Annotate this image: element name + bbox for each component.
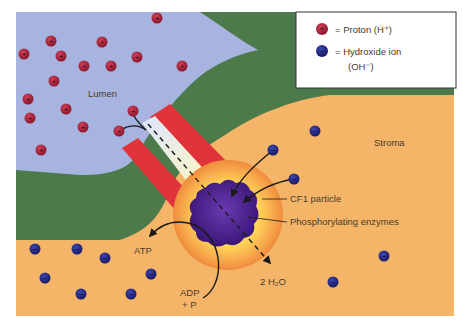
proton-icon: + xyxy=(46,36,57,47)
svg-text:−: − xyxy=(271,146,276,155)
svg-text:−: − xyxy=(79,290,84,299)
svg-text:+: + xyxy=(52,77,57,86)
stroma-label: Stroma xyxy=(374,137,405,148)
proton-icon: + xyxy=(177,61,188,72)
svg-text:−: − xyxy=(292,175,297,184)
svg-text:+: + xyxy=(39,146,44,155)
legend-proton-symbol: + xyxy=(319,24,324,34)
hydroxide-icon: − xyxy=(100,253,111,264)
svg-text:+: + xyxy=(26,95,31,104)
hydroxide-icon: − xyxy=(289,174,300,185)
svg-text:−: − xyxy=(382,252,387,261)
svg-text:+: + xyxy=(64,105,69,114)
svg-text:+: + xyxy=(155,14,160,23)
hydroxide-icon: − xyxy=(126,289,137,300)
proton-icon: + xyxy=(79,61,90,72)
proton-icon: + xyxy=(23,94,34,105)
svg-text:+: + xyxy=(81,123,86,132)
legend: + = Proton (H⁺) − = Hydroxide ion (OH⁻) xyxy=(296,12,456,88)
cf1-label: CF1 particle xyxy=(290,193,341,204)
phosphate-label: + P xyxy=(182,299,197,310)
svg-text:−: − xyxy=(43,274,48,283)
svg-text:+: + xyxy=(82,62,87,71)
proton-icon: + xyxy=(61,104,72,115)
svg-text:+: + xyxy=(49,37,54,46)
svg-text:+: + xyxy=(100,38,105,47)
svg-text:−: − xyxy=(33,245,38,254)
svg-text:+: + xyxy=(180,62,185,71)
proton-icon: + xyxy=(19,49,30,60)
svg-text:+: + xyxy=(131,107,136,116)
hydroxide-icon: − xyxy=(379,251,390,262)
legend-hydroxide-symbol: − xyxy=(319,46,324,56)
hydroxide-icon: − xyxy=(76,289,87,300)
adp-label: ADP xyxy=(180,287,200,298)
proton-icon: + xyxy=(56,51,67,62)
legend-hydroxide-label: = Hydroxide ion xyxy=(335,46,401,57)
proton-icon: + xyxy=(114,126,125,137)
cf1-diagram: +++++++++++++++++−−−−−−−−−−−− Lumen Stro… xyxy=(0,0,462,330)
svg-text:−: − xyxy=(149,270,154,279)
proton-icon: + xyxy=(132,52,143,63)
hydroxide-icon: − xyxy=(146,269,157,280)
svg-text:+: + xyxy=(109,62,114,71)
proton-icon: + xyxy=(78,122,89,133)
svg-text:+: + xyxy=(59,52,64,61)
atp-label: ATP xyxy=(134,245,152,256)
legend-proton-label: = Proton (H⁺) xyxy=(335,24,392,35)
hydroxide-icon: − xyxy=(72,244,83,255)
svg-text:+: + xyxy=(117,127,122,136)
proton-icon: + xyxy=(36,145,47,156)
hydroxide-icon: − xyxy=(310,126,321,137)
water-label: 2 H₂O xyxy=(260,276,286,287)
hydroxide-icon: − xyxy=(328,277,339,288)
svg-text:+: + xyxy=(28,114,33,123)
svg-text:+: + xyxy=(135,53,140,62)
proton-icon: + xyxy=(106,61,117,72)
enzymes-label: Phosphorylating enzymes xyxy=(290,216,399,227)
svg-text:−: − xyxy=(129,290,134,299)
proton-icon: + xyxy=(128,106,139,117)
proton-icon: + xyxy=(49,76,60,87)
proton-icon: + xyxy=(25,113,36,124)
lumen-label: Lumen xyxy=(88,88,117,99)
proton-icon: + xyxy=(152,13,163,24)
hydroxide-icon: − xyxy=(40,273,51,284)
hydroxide-icon: − xyxy=(268,145,279,156)
proton-icon: + xyxy=(97,37,108,48)
svg-text:+: + xyxy=(22,50,27,59)
svg-text:−: − xyxy=(313,127,318,136)
legend-hydroxide-formula: (OH⁻) xyxy=(348,61,374,72)
svg-text:−: − xyxy=(75,245,80,254)
hydroxide-icon: − xyxy=(30,244,41,255)
svg-text:−: − xyxy=(331,278,336,287)
svg-text:−: − xyxy=(103,254,108,263)
